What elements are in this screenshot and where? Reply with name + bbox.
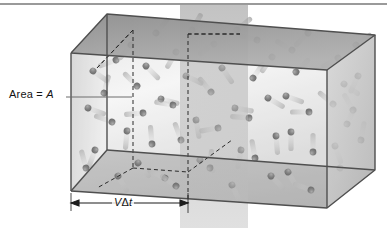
- distance-label: VΔt: [112, 196, 134, 208]
- gas-box-illustration: [0, 0, 387, 228]
- box-front-face: [71, 53, 327, 208]
- distance-label-delta: Δ: [122, 196, 130, 208]
- distance-label-velocity: V: [114, 196, 122, 208]
- distance-label-time: t: [129, 196, 132, 208]
- figure-canvas: Area = A VΔt: [0, 0, 387, 228]
- area-label-symbol: A: [46, 88, 54, 100]
- area-label-prefix: Area =: [9, 88, 46, 100]
- area-label: Area = A: [7, 88, 56, 100]
